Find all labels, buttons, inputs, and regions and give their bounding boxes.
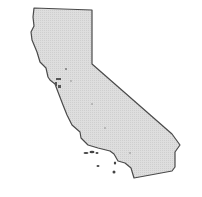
channel-islands xyxy=(84,151,117,174)
california-shape xyxy=(31,8,180,178)
california-map xyxy=(0,0,202,197)
